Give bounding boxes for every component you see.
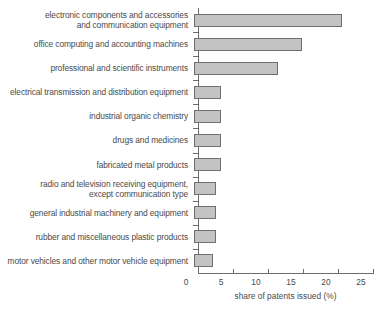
x-axis-tick bbox=[198, 269, 199, 274]
bar-track bbox=[192, 110, 388, 123]
bar-track bbox=[192, 134, 388, 147]
x-axis-tick bbox=[338, 269, 339, 274]
bar-row: electronic components and accessories an… bbox=[0, 8, 392, 32]
x-axis-tick bbox=[373, 269, 374, 274]
bar bbox=[194, 110, 221, 123]
y-axis-tick bbox=[193, 80, 198, 81]
x-axis-tick-label: 10 bbox=[244, 277, 268, 287]
bar-track bbox=[192, 182, 388, 195]
bar-track bbox=[192, 62, 388, 75]
bar-category-label: drugs and medicines bbox=[0, 135, 192, 145]
bar-row: office computing and accounting machines bbox=[0, 32, 392, 56]
x-axis-tick-label: 15 bbox=[279, 277, 303, 287]
y-axis-tick bbox=[193, 225, 198, 226]
bar-row: industrial organic chemistry bbox=[0, 104, 392, 128]
x-axis-tick-label: 25 bbox=[349, 277, 373, 287]
bar-category-label: professional and scientific instruments bbox=[0, 63, 192, 73]
bar-row: radio and television receiving equipment… bbox=[0, 177, 392, 201]
bar-track bbox=[192, 254, 388, 267]
bar-category-label: electronic components and accessories an… bbox=[0, 10, 192, 30]
bar bbox=[194, 62, 278, 75]
y-axis-tick bbox=[193, 177, 198, 178]
x-axis-tick-label: 0 bbox=[174, 277, 198, 287]
bar-row: professional and scientific instruments bbox=[0, 56, 392, 80]
bar-row: fabricated metal products bbox=[0, 153, 392, 177]
bar-category-label: fabricated metal products bbox=[0, 160, 192, 170]
y-axis-tick bbox=[193, 56, 198, 57]
x-axis-tick bbox=[233, 269, 234, 274]
bar-track bbox=[192, 158, 388, 171]
bar-row: electrical transmission and distribution… bbox=[0, 80, 392, 104]
x-axis-tick-label: 20 bbox=[314, 277, 338, 287]
bar-row: drugs and medicines bbox=[0, 128, 392, 152]
bar-category-label: rubber and miscellaneous plastic product… bbox=[0, 232, 192, 242]
x-axis-tick-label: 5 bbox=[209, 277, 233, 287]
bar-category-label: radio and television receiving equipment… bbox=[0, 179, 192, 199]
bar bbox=[194, 230, 216, 243]
y-axis-tick bbox=[193, 128, 198, 129]
bar bbox=[194, 86, 221, 99]
bar bbox=[194, 38, 302, 51]
bar-category-label: general industrial machinery and equipme… bbox=[0, 208, 192, 218]
bar-chart: electronic components and accessories an… bbox=[0, 0, 392, 313]
x-axis-tick bbox=[268, 269, 269, 274]
bar-row: motor vehicles and other motor vehicle e… bbox=[0, 249, 392, 273]
bar-category-label: industrial organic chemistry bbox=[0, 111, 192, 121]
bar-category-label: electrical transmission and distribution… bbox=[0, 87, 192, 97]
bar-row: general industrial machinery and equipme… bbox=[0, 201, 392, 225]
bar bbox=[194, 206, 216, 219]
y-axis-tick bbox=[193, 249, 198, 250]
y-axis-tick bbox=[193, 32, 198, 33]
bar-category-label: office computing and accounting machines bbox=[0, 39, 192, 49]
y-axis-tick bbox=[193, 201, 198, 202]
bar-track bbox=[192, 206, 388, 219]
bar bbox=[194, 158, 221, 171]
x-axis-tick bbox=[303, 269, 304, 274]
bar-row: rubber and miscellaneous plastic product… bbox=[0, 225, 392, 249]
bar-track bbox=[192, 14, 388, 27]
x-axis-line bbox=[198, 273, 373, 274]
bar-track bbox=[192, 230, 388, 243]
bar bbox=[194, 182, 216, 195]
x-axis-title: share of patents issued (%) bbox=[198, 291, 373, 301]
bar bbox=[194, 134, 221, 147]
bar-track bbox=[192, 86, 388, 99]
bar-rows: electronic components and accessories an… bbox=[0, 8, 392, 273]
bar bbox=[194, 14, 342, 27]
bar-track bbox=[192, 38, 388, 51]
y-axis-tick bbox=[193, 153, 198, 154]
bar-category-label: motor vehicles and other motor vehicle e… bbox=[0, 256, 192, 266]
y-axis-tick bbox=[193, 104, 198, 105]
bar bbox=[194, 254, 213, 267]
